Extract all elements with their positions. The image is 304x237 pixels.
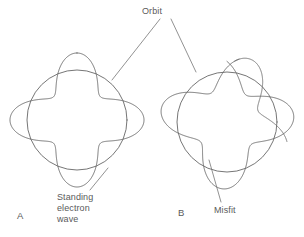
diagram-canvas: Orbit Standingelectronwave Misfit A B [0,0,304,237]
standing-wave-panel-b [161,59,294,189]
standing-wave-panel-a [10,53,144,187]
leader-orbit-to-panel-b [171,19,196,72]
leader-lines-group [90,19,221,202]
diagram-svg [0,0,304,237]
panel-letter-b: B [178,207,184,218]
standing-wave-line-1: Standing [57,192,93,202]
leader-standing-wave [90,168,108,190]
curves-group [10,53,294,189]
orbit-circle-panel-a [27,70,127,170]
leader-misfit [209,160,221,202]
label-orbit: Orbit [142,6,162,17]
panel-letter-a: A [17,210,23,221]
misfit-open-end-panel-b [235,58,287,141]
standing-wave-line-3: wave [57,214,78,224]
label-misfit: Misfit [214,205,236,216]
leader-orbit-to-panel-a [112,19,160,80]
label-standing-electron-wave: Standingelectronwave [57,192,93,225]
standing-wave-line-2: electron [57,203,90,213]
